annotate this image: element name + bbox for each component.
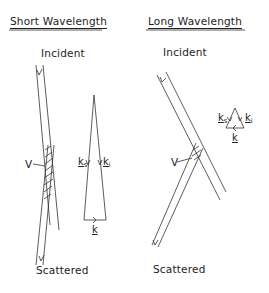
scattering-diagram — [0, 0, 269, 293]
short-ks-label: ks — [78, 156, 87, 169]
long-k-label: k — [232, 132, 238, 143]
ks-subscript: s — [84, 161, 88, 169]
long-scattering-volume-hatch — [192, 146, 201, 160]
ki-subscript: i — [109, 161, 111, 169]
long-volume-label: V — [171, 156, 178, 168]
ks-subscript: s — [224, 117, 228, 125]
k-symbol: k — [92, 224, 98, 235]
short-volume-label: V — [25, 158, 32, 170]
k-symbol: k — [232, 132, 238, 143]
long-volume-pointer — [177, 158, 192, 162]
long-ki-label: ki — [245, 112, 253, 125]
long-ks-label: ks — [218, 112, 227, 125]
short-ki-label: ki — [103, 156, 111, 169]
short-k-label: k — [92, 224, 98, 235]
short-volume-pointer — [33, 164, 45, 166]
long-incident-beam — [157, 72, 226, 200]
long-vector-triangle — [226, 108, 244, 131]
short-scattered-beam — [36, 145, 54, 265]
ki-subscript: i — [251, 117, 253, 125]
